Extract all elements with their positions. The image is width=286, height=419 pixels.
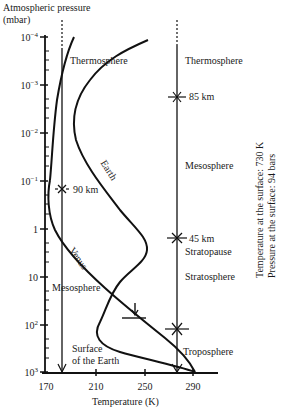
stratopause-label: Stratopause xyxy=(185,246,232,257)
right-85km-label: 85 km xyxy=(189,91,214,102)
y-tick-label: 10−1 xyxy=(8,175,38,187)
x-axis-title: Temperature (K) xyxy=(92,396,159,407)
y-tick-label: 10 xyxy=(8,271,38,283)
venus-surface-pressure-note: Pressure at the surface: 94 bars xyxy=(266,154,277,278)
y-tick-label: 103 xyxy=(8,366,38,378)
y-tick-label: 10−2 xyxy=(8,127,38,139)
surface-label-line1: Surface xyxy=(72,343,103,354)
x-tick-label: 290 xyxy=(178,381,208,392)
y-tick-label: 1 xyxy=(8,223,38,235)
y-axis-unit: (mbar) xyxy=(3,14,30,25)
atmosphere-diagram xyxy=(0,0,286,419)
right-45km-label: 45 km xyxy=(189,233,214,244)
surface-label-line2: of the Earth xyxy=(72,355,119,366)
x-tick-label: 250 xyxy=(130,381,160,392)
left-mesosphere-label: Mesosphere xyxy=(52,282,100,293)
venus-surface-temperature-note: Temperature at the surface: 730 K xyxy=(254,142,265,278)
stratosphere-label: Stratosphere xyxy=(185,271,235,282)
y-tick-label: 102 xyxy=(8,319,38,331)
x-tick-label: 170 xyxy=(31,381,61,392)
x-tick-label: 210 xyxy=(81,381,111,392)
right-thermosphere-label: Thermosphere xyxy=(185,55,243,66)
troposphere-label: Troposphere xyxy=(183,346,233,357)
left-90km-label: 90 km xyxy=(73,184,98,195)
venus-curve xyxy=(48,180,195,372)
y-tick-label: 10−4 xyxy=(8,31,38,43)
left-thermosphere-label: Thermosphere xyxy=(70,55,128,66)
right-mesosphere-label: Mesosphere xyxy=(185,160,233,171)
y-axis-title: Atmospheric pressure xyxy=(3,2,90,13)
y-tick-label: 10−3 xyxy=(8,79,38,91)
